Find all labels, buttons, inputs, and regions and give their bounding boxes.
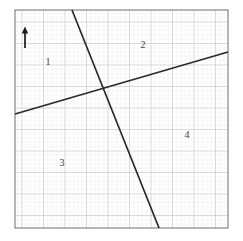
region-label-2: 2 — [141, 40, 146, 50]
grid-area — [15, 10, 228, 228]
figure-canvas — [0, 0, 243, 241]
region-label-3: 3 — [60, 158, 65, 168]
graph-figure: 1 2 3 4 — [0, 0, 243, 241]
region-label-1: 1 — [46, 57, 51, 67]
region-label-4: 4 — [185, 130, 190, 140]
